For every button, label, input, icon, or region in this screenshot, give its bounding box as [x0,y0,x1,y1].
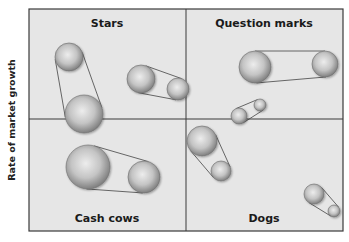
bubble-target [254,99,266,111]
bubble-current [55,43,83,71]
bubble-current [127,65,155,93]
bubble-current [239,51,271,83]
bubble-current [304,184,324,204]
quadrant-label-stars: Stars [91,17,124,30]
quadrant-label-dogs: Dogs [248,212,280,225]
quadrant-label-cash-cows: Cash cows [75,212,140,225]
bubble-target [312,51,338,77]
bubble-target [328,205,340,217]
bcg-matrix: Stars Question marks Cash cows Dogs [0,0,349,242]
bubble-target [167,78,189,100]
bubble-current [187,126,217,156]
bubble-current [231,108,247,124]
bubble-target [211,161,231,181]
quadrant-label-question-marks: Question marks [215,17,313,30]
bubble-current [66,145,110,189]
bubble-target [65,95,103,133]
bubble-target [128,161,160,193]
